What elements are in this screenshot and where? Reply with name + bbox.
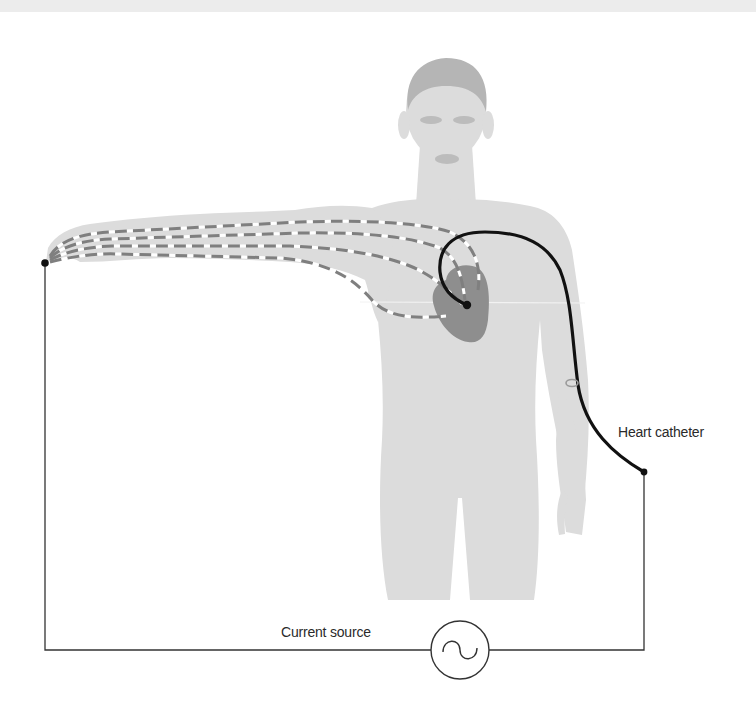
ac-source-sine-wave-icon [431,621,489,679]
heart-catheter-label: Heart catheter [618,424,704,440]
current-source-label: Current source [281,624,371,640]
catheter-tip [463,301,471,309]
catheter-end-node [641,469,648,476]
hand-electrode [41,259,49,267]
body-silhouette [46,60,589,600]
shock-path-diagram [0,0,756,709]
